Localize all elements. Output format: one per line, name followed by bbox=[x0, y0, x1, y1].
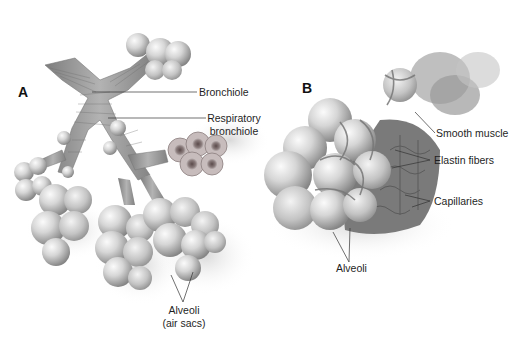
label-respiratory-bronchiole-line1: Respiratory bbox=[206, 112, 262, 125]
label-alveoli-line1: Alveoli bbox=[156, 304, 212, 317]
label-respiratory-bronchiole-line2: bronchiole bbox=[206, 125, 262, 138]
label-respiratory-bronchiole: Respiratory bronchiole bbox=[206, 112, 262, 138]
label-alveoli-air-sacs: Alveoli (air sacs) bbox=[156, 304, 212, 330]
label-bronchiole: Bronchiole bbox=[199, 86, 249, 99]
label-alveoli-line2: (air sacs) bbox=[156, 317, 212, 330]
panel-b-letter: B bbox=[302, 80, 312, 96]
panel-a-letter: A bbox=[18, 84, 28, 100]
label-capillaries: Capillaries bbox=[434, 195, 483, 208]
label-smooth-muscle: Smooth muscle bbox=[436, 127, 508, 140]
panel-a-art bbox=[14, 33, 270, 305]
label-alveoli-b: Alveoli bbox=[336, 262, 367, 275]
label-elastin-fibers: Elastin fibers bbox=[434, 154, 494, 167]
alveoli-illustration bbox=[0, 0, 528, 339]
